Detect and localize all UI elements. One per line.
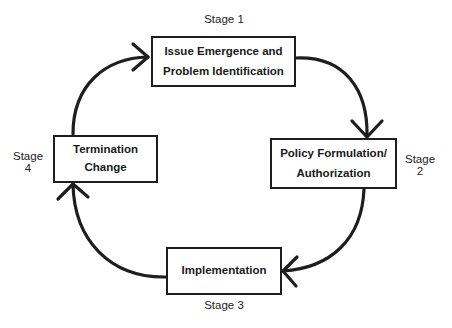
stage-2-label: Stage 2: [398, 153, 442, 177]
stage-1-label: Stage 1: [196, 13, 252, 25]
stage-3-box: Implementation: [166, 247, 282, 295]
stage-2-box: Policy Formulation/ Authorization: [270, 138, 397, 189]
stage-3-text-line-1: Implementation: [182, 265, 267, 277]
stage-4-label-word: Stage: [8, 150, 48, 162]
stage-1-text-line-1: Issue Emergence and: [164, 46, 282, 58]
stage-4-box: Termination Change: [53, 135, 158, 183]
arrow-stage3-to-stage4: [58, 184, 166, 277]
stage-2-text-line-2: Authorization: [296, 168, 370, 180]
stage-4-label-number: 4: [8, 162, 48, 174]
stage-4-text-line-1: Termination: [73, 144, 138, 156]
stage-2-text-line-1: Policy Formulation/: [280, 148, 387, 160]
stage-3-label: Stage 3: [196, 299, 252, 311]
stage-1-box: Issue Emergence and Problem Identificati…: [151, 36, 296, 87]
stage-1-text-line-2: Problem Identification: [163, 66, 284, 78]
arrow-stage1-to-stage2: [296, 58, 382, 137]
stage-4-text-line-2: Change: [84, 162, 126, 174]
policy-cycle-diagram: Stage 1 Issue Emergence and Problem Iden…: [0, 0, 452, 328]
stage-2-label-number: 2: [398, 165, 442, 177]
stage-4-label: Stage 4: [8, 150, 48, 174]
arrow-stage4-to-stage1: [73, 44, 148, 134]
stage-2-label-word: Stage: [398, 153, 442, 165]
arrow-stage2-to-stage3: [283, 189, 364, 286]
